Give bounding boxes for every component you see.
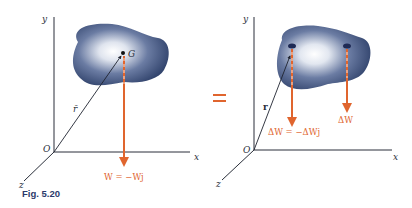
rigid-body-blob — [73, 24, 169, 86]
right-panel: y x z O r ΔW = −ΔWj ΔW — [215, 14, 398, 189]
z-axis — [24, 152, 54, 181]
weight-center-of-gravity-diagram: y x z O r̄ G W = −Wj y x z O r — [0, 0, 412, 208]
origin-label: O — [43, 144, 51, 154]
position-vector-label: r — [263, 102, 268, 112]
left-panel: y x z O r̄ G W = −Wj — [18, 14, 199, 190]
mass-element-1 — [288, 44, 296, 49]
equals-sign — [213, 94, 226, 102]
weight-element-label-2: ΔW — [338, 115, 353, 125]
y-axis-label: y — [242, 14, 249, 24]
weight-element-label-1: ΔW = −ΔWj — [268, 127, 320, 137]
x-axis-label: x — [393, 152, 398, 162]
z-axis-label: z — [215, 179, 221, 189]
figure-caption: Fig. 5.20 — [22, 188, 60, 199]
weight-force-label: W = −Wj — [104, 172, 144, 182]
center-of-gravity-point — [121, 51, 125, 55]
x-axis-label: x — [194, 152, 199, 162]
origin-label: O — [243, 145, 251, 155]
y-axis-label: y — [41, 14, 48, 24]
mass-element-2 — [343, 44, 351, 49]
center-of-gravity-label: G — [128, 49, 135, 59]
position-vector-label: r̄ — [73, 104, 78, 114]
